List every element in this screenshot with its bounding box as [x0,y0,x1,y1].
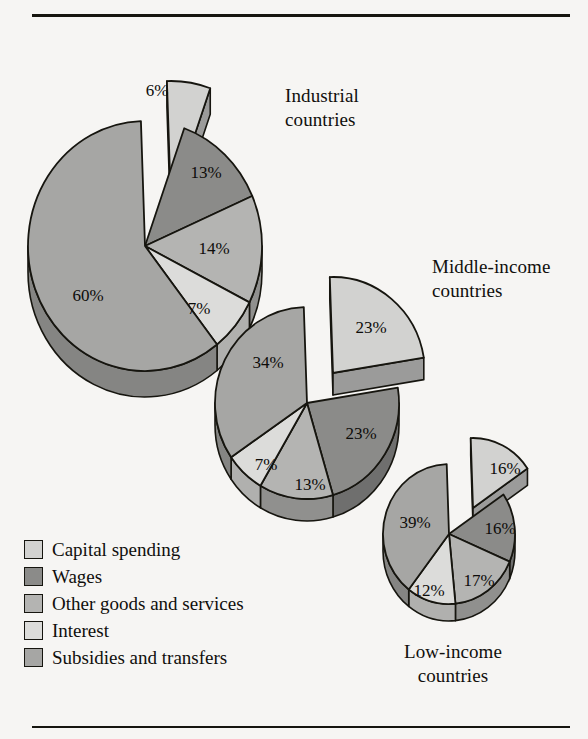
pie-slice-label: 16% [489,459,520,478]
pie-slice-label: 7% [255,455,278,474]
pie-slice-label: 14% [198,239,229,258]
legend-item[interactable]: Subsidies and transfers [24,644,244,671]
legend-item[interactable]: Interest [24,617,244,644]
swatch-other-goods [24,594,43,613]
pie-title-industrial: Industrial countries [285,84,359,132]
swatch-interest [24,621,43,640]
pie-title-middle-income-line2: countries [432,279,550,303]
pie-slice-label: 60% [72,286,103,305]
pie-slice-label: 12% [413,581,444,600]
pie-slice-label: 13% [190,163,221,182]
legend-item[interactable]: Other goods and services [24,590,244,617]
pie-slice-label: 7% [188,299,211,318]
legend-item-label: Subsidies and transfers [52,647,227,669]
legend-item-label: Other goods and services [52,593,244,615]
legend: Capital spendingWagesOther goods and ser… [24,536,244,671]
swatch-subsidies [24,648,43,667]
pie-slice-label: 17% [463,571,494,590]
legend-item[interactable]: Wages [24,563,244,590]
pie-title-low-income-line2: countries [378,664,528,688]
pie-title-industrial-line1: Industrial [285,84,359,108]
legend-item-label: Capital spending [52,539,180,561]
swatch-capital-spending [24,540,43,559]
pie-industrial-countries: 6%13%14%7%60% [28,81,262,397]
pie-slice-label: 34% [252,353,283,372]
legend-item-label: Wages [52,566,102,588]
pie-slice-label: 16% [484,519,515,538]
pie-low-income-countries: 16%16%17%12%39% [383,438,527,621]
pie-title-low-income-line1: Low-income [378,640,528,664]
pie-title-low-income: Low-income countries [378,640,528,688]
pie-title-middle-income-line1: Middle-income [432,255,550,279]
legend-item[interactable]: Capital spending [24,536,244,563]
pie-title-middle-income: Middle-income countries [432,255,550,303]
pie-slice-label: 13% [294,475,325,494]
pie-title-industrial-line2: countries [285,108,359,132]
legend-item-label: Interest [52,620,109,642]
figure-canvas: 6%13%14%7%60%23%23%13%7%34%16%16%17%12%3… [0,0,588,739]
pie-slice-label: 39% [399,513,430,532]
pie-slice-label: 23% [345,424,376,443]
pie-slice-label: 23% [355,318,386,337]
pie-slice-label: 6% [146,81,169,100]
swatch-wages [24,567,43,586]
